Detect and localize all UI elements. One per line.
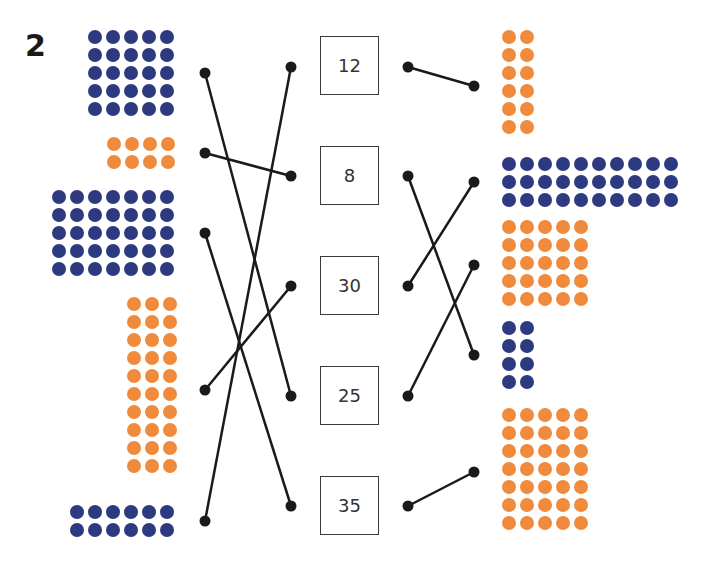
endpoint-dot <box>200 228 211 239</box>
endpoint-dot <box>469 467 480 478</box>
connector-line-L4-30 <box>205 286 291 390</box>
endpoint-dot <box>403 391 414 402</box>
connector-line-30-R2 <box>408 182 474 286</box>
endpoint-dot <box>469 350 480 361</box>
matching-lines <box>0 0 711 561</box>
endpoint-dot <box>200 385 211 396</box>
endpoint-dot <box>469 81 480 92</box>
endpoint-dot <box>200 148 211 159</box>
endpoint-dot <box>286 171 297 182</box>
endpoint-dot <box>403 171 414 182</box>
connector-line-L3-35 <box>205 233 291 506</box>
endpoint-dot <box>403 281 414 292</box>
endpoint-dot <box>469 260 480 271</box>
connector-line-L5-12 <box>205 67 291 521</box>
endpoint-dot <box>200 68 211 79</box>
endpoint-dot <box>200 516 211 527</box>
endpoint-dot <box>403 62 414 73</box>
connector-line-12-R1 <box>408 67 474 86</box>
endpoint-dot <box>403 501 414 512</box>
connector-line-L2-8 <box>205 153 291 176</box>
endpoint-dot <box>286 501 297 512</box>
endpoint-dot <box>469 177 480 188</box>
connector-line-35-R5 <box>408 472 474 506</box>
endpoint-dot <box>286 62 297 73</box>
endpoint-dot <box>286 391 297 402</box>
connector-line-L1-25 <box>205 73 291 396</box>
endpoint-dot <box>286 281 297 292</box>
